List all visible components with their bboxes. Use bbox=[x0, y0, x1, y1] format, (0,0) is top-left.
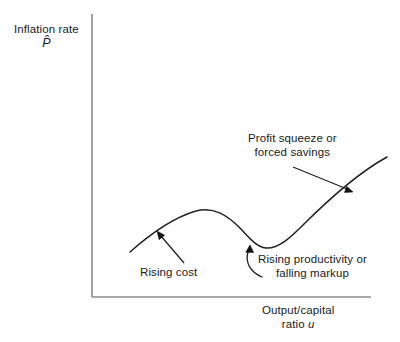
annotation-profit-squeeze: Profit squeeze or forced savings bbox=[248, 131, 337, 159]
annotation-rising-cost: Rising cost bbox=[140, 265, 197, 279]
annotation-profit-squeeze-line2: forced savings bbox=[255, 146, 331, 158]
y-axis-symbol: P̂ bbox=[14, 36, 79, 51]
diagram-canvas bbox=[0, 0, 400, 342]
inflation-curve bbox=[130, 157, 387, 252]
x-axis-title-line1: Output/capital bbox=[262, 304, 334, 316]
inflation-output-capital-diagram: Inflation rate P̂ Output/capital ratio u… bbox=[0, 0, 400, 342]
rising-cost-arrow bbox=[157, 231, 184, 263]
annotation-rising-productivity-line2: falling markup bbox=[276, 267, 349, 279]
y-axis-title: Inflation rate P̂ bbox=[14, 22, 79, 51]
annotation-rising-productivity-line1: Rising productivity or bbox=[258, 253, 367, 265]
x-axis-symbol: u bbox=[308, 318, 315, 330]
x-axis-ratio-word: ratio bbox=[282, 318, 308, 330]
annotation-profit-squeeze-line1: Profit squeeze or bbox=[248, 132, 337, 144]
annotation-rising-cost-line1: Rising cost bbox=[140, 266, 197, 278]
profit-squeeze-arrow bbox=[293, 167, 353, 192]
x-axis-title-line2: ratio u bbox=[262, 317, 334, 331]
y-axis-title-text: Inflation rate bbox=[14, 23, 79, 35]
x-axis-title: Output/capital ratio u bbox=[262, 303, 334, 331]
annotation-rising-productivity: Rising productivity or falling markup bbox=[258, 252, 367, 280]
